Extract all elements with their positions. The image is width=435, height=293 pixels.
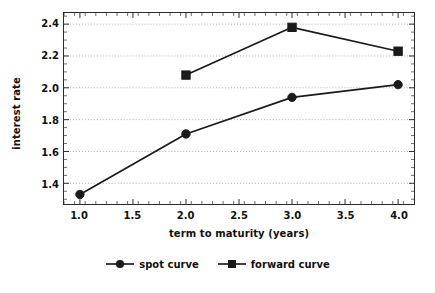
plot-area [63,12,415,205]
plot-canvas [64,13,414,204]
legend-marker-icon [217,258,247,270]
data-point-marker [182,130,190,138]
chart-legend: spot curveforward curve [0,258,435,270]
data-point-marker [288,93,296,101]
y-tick-label: 2.2 [19,50,59,61]
data-point-marker [394,80,402,88]
x-axis-title: term to maturity (years) [63,228,415,239]
data-point-marker [76,190,84,198]
legend-label: forward curve [251,259,330,270]
series-line-0 [80,85,398,195]
legend-marker-icon [105,258,135,270]
x-tick-label: 3.0 [267,210,317,221]
series-line-1 [186,27,398,75]
y-tick-label: 1.4 [19,179,59,190]
y-tick-label: 2.0 [19,82,59,93]
x-tick-label: 3.5 [321,210,371,221]
y-tick-label: 2.4 [19,18,59,29]
data-point-marker [394,47,402,55]
x-tick-label: 1.5 [107,210,157,221]
x-tick-label: 2.0 [161,210,211,221]
y-tick-label: 1.8 [19,114,59,125]
x-tick-label: 4.0 [374,210,424,221]
legend-item-forward-curve[interactable]: forward curve [217,258,330,270]
x-axis-tick-labels: 1.01.52.02.53.03.54.0 [63,210,415,226]
chart-figure: interest rate 1.41.61.82.02.22.4 1.01.52… [0,0,435,293]
legend-item-spot-curve[interactable]: spot curve [105,258,199,270]
x-tick-label: 1.0 [54,210,104,221]
data-point-marker [182,71,190,79]
data-point-marker [288,23,296,31]
y-axis-tick-labels: 1.41.61.82.02.22.4 [14,12,59,205]
legend-label: spot curve [139,259,199,270]
y-tick-label: 1.6 [19,146,59,157]
x-tick-label: 2.5 [214,210,264,221]
